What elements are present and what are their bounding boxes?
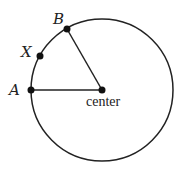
circle-diagram: A B X center xyxy=(0,0,181,170)
point-x xyxy=(37,53,44,60)
point-center xyxy=(99,87,106,94)
label-a: A xyxy=(7,81,20,99)
label-center: center xyxy=(86,94,121,109)
radius-b xyxy=(67,29,102,90)
point-b xyxy=(64,26,71,33)
label-x: X xyxy=(20,43,33,61)
point-a xyxy=(28,87,35,94)
label-b: B xyxy=(52,10,64,28)
